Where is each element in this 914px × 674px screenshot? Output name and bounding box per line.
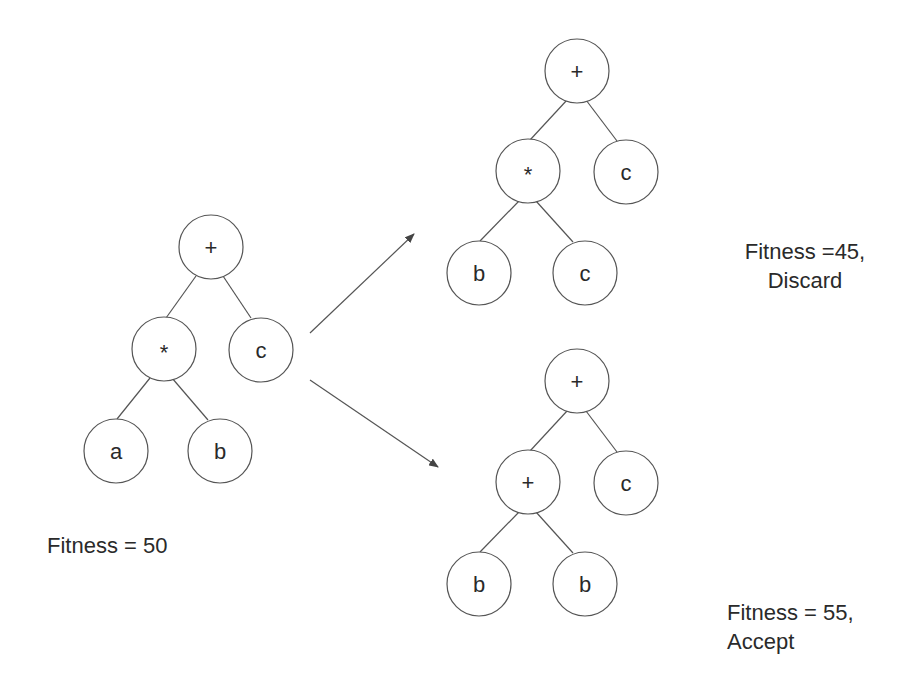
discard-fitness-value: Fitness =45, xyxy=(730,237,880,266)
tree-node: + xyxy=(179,215,243,279)
tree-node: b xyxy=(553,552,617,616)
svg-text:b: b xyxy=(214,439,226,464)
parent-tree: + * c a b xyxy=(84,215,293,483)
tree-node: * xyxy=(496,139,560,203)
edge xyxy=(480,201,519,241)
edge xyxy=(480,512,519,552)
edge xyxy=(166,276,196,318)
svg-text:+: + xyxy=(571,369,584,394)
tree-node: c xyxy=(594,140,658,204)
tree-node: b xyxy=(447,241,511,305)
arrow-to-discard xyxy=(310,234,414,333)
tree-node: a xyxy=(84,419,148,483)
offspring-accept-tree: + + c b b xyxy=(447,349,658,616)
svg-text:a: a xyxy=(110,439,123,464)
accept-verdict: Accept xyxy=(727,627,854,656)
offspring-discard-tree: + * c b c xyxy=(447,39,658,305)
svg-text:+: + xyxy=(522,470,535,495)
edge xyxy=(172,378,208,420)
svg-text:b: b xyxy=(473,572,485,597)
svg-text:b: b xyxy=(579,572,591,597)
arrow-to-accept xyxy=(310,380,438,467)
tree-node: + xyxy=(496,450,560,514)
svg-text:c: c xyxy=(621,471,632,496)
edge xyxy=(117,378,150,419)
tree-node: + xyxy=(545,349,609,413)
edge xyxy=(223,276,251,318)
edge xyxy=(530,411,567,451)
tree-node: c xyxy=(594,451,658,515)
svg-text:c: c xyxy=(256,338,267,363)
edge xyxy=(536,201,573,242)
edge xyxy=(586,100,617,141)
discard-fitness-label: Fitness =45, Discard xyxy=(730,237,880,295)
edge xyxy=(586,411,617,452)
parent-fitness-label: Fitness = 50 xyxy=(47,531,167,560)
tree-node: b xyxy=(447,552,511,616)
tree-node: * xyxy=(132,317,196,381)
svg-text:*: * xyxy=(524,162,533,187)
svg-text:+: + xyxy=(205,235,218,260)
svg-text:+: + xyxy=(571,59,584,84)
edge xyxy=(530,100,567,140)
diagram-canvas: + * c a b + * xyxy=(0,0,914,674)
tree-node: + xyxy=(545,39,609,103)
tree-node: c xyxy=(553,241,617,305)
accept-fitness-value: Fitness = 55, xyxy=(727,598,854,627)
svg-text:*: * xyxy=(160,340,169,365)
svg-text:b: b xyxy=(473,261,485,286)
accept-fitness-label: Fitness = 55, Accept xyxy=(727,598,854,656)
edge xyxy=(536,512,573,553)
svg-text:c: c xyxy=(580,261,591,286)
svg-text:c: c xyxy=(621,160,632,185)
tree-node: c xyxy=(229,318,293,382)
discard-verdict: Discard xyxy=(730,266,880,295)
tree-node: b xyxy=(188,419,252,483)
